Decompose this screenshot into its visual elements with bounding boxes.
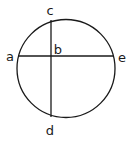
circle-chord-diagram: c b a e d bbox=[0, 0, 132, 143]
label-a: a bbox=[6, 49, 14, 64]
label-d: d bbox=[46, 123, 54, 138]
circle bbox=[17, 20, 115, 118]
label-b: b bbox=[54, 42, 62, 57]
label-e: e bbox=[118, 50, 126, 65]
label-c: c bbox=[46, 3, 53, 18]
